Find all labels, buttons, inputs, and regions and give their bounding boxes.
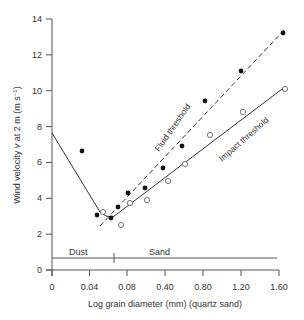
fluid-threshold-label: Fluid threshold bbox=[152, 102, 192, 154]
impact-data-point bbox=[240, 109, 245, 114]
fluid-data-point bbox=[143, 186, 148, 191]
x-ticks: 00.040.080.400.801.201.60 bbox=[49, 270, 287, 292]
impact-data-point bbox=[100, 209, 105, 214]
x-tick-label: 0.08 bbox=[118, 282, 136, 292]
impact-data-point bbox=[182, 161, 187, 166]
impact-data-point bbox=[207, 132, 212, 137]
impact-data-point bbox=[282, 86, 287, 91]
fluid-data-point bbox=[281, 31, 286, 36]
y-label-rest: at 2 m (m s bbox=[12, 96, 22, 144]
x-tick-label: 1.60 bbox=[270, 282, 288, 292]
impact-threshold-line bbox=[52, 86, 286, 217]
dust-label: Dust bbox=[69, 247, 88, 257]
x-tick-label: 1.20 bbox=[232, 282, 250, 292]
sand-label: Sand bbox=[149, 247, 170, 257]
fluid-data-point bbox=[109, 216, 114, 221]
scatter-chart: 02468101214 00.040.080.400.801.201.60 Du… bbox=[0, 0, 304, 320]
x-tick-label: 0.04 bbox=[81, 282, 99, 292]
fluid-data-point bbox=[203, 99, 208, 104]
y-label-close: ) bbox=[12, 86, 22, 89]
fluid-data-point bbox=[126, 191, 131, 196]
fluid-data-point bbox=[239, 69, 244, 74]
impact-data-point bbox=[165, 178, 170, 183]
fluid-data-point bbox=[80, 149, 85, 154]
y-tick-label: 0 bbox=[37, 265, 42, 275]
fluid-data-point bbox=[180, 144, 185, 149]
y-tick-label: 12 bbox=[32, 50, 42, 60]
impact-data-point bbox=[118, 222, 123, 227]
y-tick-label: 14 bbox=[32, 14, 42, 24]
fluid-data-point bbox=[116, 205, 121, 210]
x-tick-label: 0.80 bbox=[194, 282, 212, 292]
y-tick-label: 10 bbox=[32, 86, 42, 96]
impact-data-point bbox=[127, 200, 132, 205]
impact-data-point bbox=[144, 197, 149, 202]
y-tick-label: 8 bbox=[37, 122, 42, 132]
y-tick-label: 6 bbox=[37, 157, 42, 167]
x-tick-label: 0 bbox=[49, 282, 54, 292]
fluid-data-point bbox=[161, 166, 166, 171]
y-tick-label: 4 bbox=[37, 193, 42, 203]
x-tick-label: 0.40 bbox=[156, 282, 174, 292]
y-tick-label: 2 bbox=[37, 229, 42, 239]
y-axis-label: Wind velocity v at 2 m (m s−1) bbox=[12, 86, 22, 203]
y-ticks: 02468101214 bbox=[32, 14, 52, 275]
fluid-data-point bbox=[95, 213, 100, 218]
y-label-main: Wind velocity bbox=[12, 148, 22, 204]
x-axis-label: Log grain diameter (mm) (quartz sand) bbox=[88, 299, 242, 309]
impact-threshold-label: Impact threshold bbox=[217, 115, 271, 164]
